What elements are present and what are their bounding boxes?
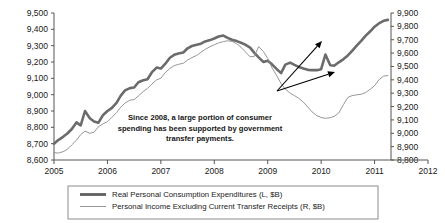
legend-label: Real Personal Consumption Expenditures (… bbox=[112, 190, 283, 199]
annotation-line: spending has been supported by governmen… bbox=[118, 124, 283, 133]
right-axis-tick-label: 9,900 bbox=[397, 8, 419, 18]
legend-label: Personal Income Excluding Current Transf… bbox=[112, 202, 325, 211]
left-axis-tick-label: 9,000 bbox=[27, 90, 49, 100]
x-axis: 20052006200720082009201020112012 bbox=[45, 160, 438, 176]
right-axis-tick-label: 9,200 bbox=[397, 102, 419, 112]
left-y-axis: 9,5009,4009,3009,2009,1009,0008,9008,800… bbox=[27, 8, 54, 165]
left-axis-tick-label: 8,800 bbox=[27, 122, 49, 132]
chart-legend: Real Personal Consumption Expenditures (… bbox=[68, 186, 378, 219]
x-axis-tick-label: 2011 bbox=[365, 166, 384, 176]
arrow-to-income-head bbox=[327, 71, 335, 77]
right-axis-tick-label: 9,000 bbox=[397, 128, 419, 138]
right-y-axis: 9,9009,8009,7009,6009,5009,4009,3009,200… bbox=[391, 8, 419, 165]
x-axis-tick-label: 2010 bbox=[312, 166, 331, 176]
right-axis-tick-label: 9,700 bbox=[397, 35, 419, 45]
x-axis-tick-label: 2008 bbox=[205, 166, 224, 176]
x-axis-tick-label: 2009 bbox=[258, 166, 277, 176]
right-axis-tick-label: 9,300 bbox=[397, 88, 419, 98]
right-axis-tick-label: 9,500 bbox=[397, 61, 419, 71]
x-axis-tick-label: 2005 bbox=[45, 166, 64, 176]
left-axis-tick-label: 8,600 bbox=[27, 155, 49, 165]
x-axis-tick-label: 2007 bbox=[151, 166, 170, 176]
annotation-text: Since 2008, a large portion of consumers… bbox=[118, 113, 283, 143]
x-axis-tick-label: 2006 bbox=[98, 166, 117, 176]
annotation-line: Since 2008, a large portion of consumer bbox=[128, 113, 272, 122]
left-axis-tick-label: 9,100 bbox=[27, 73, 49, 83]
line-chart: 9,5009,4009,3009,2009,1009,0008,9008,800… bbox=[0, 0, 445, 223]
right-axis-tick-label: 9,800 bbox=[397, 21, 419, 31]
left-axis-tick-label: 9,500 bbox=[27, 8, 49, 18]
left-axis-tick-label: 8,700 bbox=[27, 139, 49, 149]
annotation-line: transfer payments. bbox=[166, 134, 234, 143]
chart-container: 9,5009,4009,3009,2009,1009,0008,9008,800… bbox=[0, 0, 445, 223]
right-axis-tick-label: 9,400 bbox=[397, 75, 419, 85]
right-axis-tick-label: 8,900 bbox=[397, 142, 419, 152]
x-axis-tick-label: 2012 bbox=[419, 166, 438, 176]
right-axis-tick-label: 9,100 bbox=[397, 115, 419, 125]
left-axis-tick-label: 8,900 bbox=[27, 106, 49, 116]
left-axis-tick-label: 9,400 bbox=[27, 24, 49, 34]
left-axis-tick-label: 9,200 bbox=[27, 57, 49, 67]
left-axis-tick-label: 9,300 bbox=[27, 41, 49, 51]
right-axis-tick-label: 9,600 bbox=[397, 48, 419, 58]
